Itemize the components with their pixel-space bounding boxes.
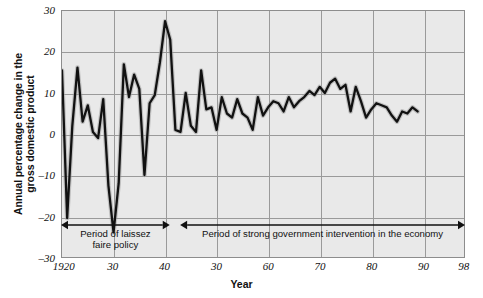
gdp-change-chart: Annual percentage change in the gross do…: [0, 0, 483, 298]
government-intervention-label: Period of strong government intervention…: [180, 228, 465, 239]
annotation-arrows: [0, 0, 483, 298]
laissez-faire-label: Period of laissez faire policy: [61, 228, 170, 250]
